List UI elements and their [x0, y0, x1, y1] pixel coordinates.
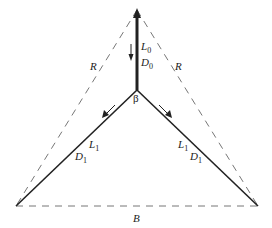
- left-label-L1: L1: [88, 138, 99, 153]
- right-branch: [137, 90, 258, 206]
- left-label-D1: D1: [74, 150, 87, 165]
- stem-label-D0: D0: [140, 56, 153, 71]
- stem-flow-arrow-icon: [129, 54, 134, 61]
- dashed-label-right-R: R: [174, 60, 182, 72]
- dashed-label-base-B: B: [133, 212, 140, 224]
- junction-label-beta: β: [133, 92, 139, 104]
- right-label-D1: D1: [189, 150, 202, 165]
- stem-label-L0: L0: [140, 40, 151, 55]
- stem-top-arrowhead: [133, 8, 141, 18]
- dashed-label-left-R: R: [89, 60, 97, 72]
- branching-diagram: L0 D0 β L1 D1 L1 D1 R R B: [0, 0, 272, 228]
- right-label-L1: L1: [177, 138, 188, 153]
- left-branch: [16, 90, 137, 206]
